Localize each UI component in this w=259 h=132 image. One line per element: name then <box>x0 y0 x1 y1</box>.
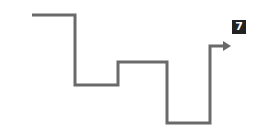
step-number-badge: 7 <box>232 20 246 34</box>
stepped-line <box>32 15 224 123</box>
stepped-path-diagram <box>0 0 259 132</box>
arrow-right-icon <box>223 41 231 51</box>
